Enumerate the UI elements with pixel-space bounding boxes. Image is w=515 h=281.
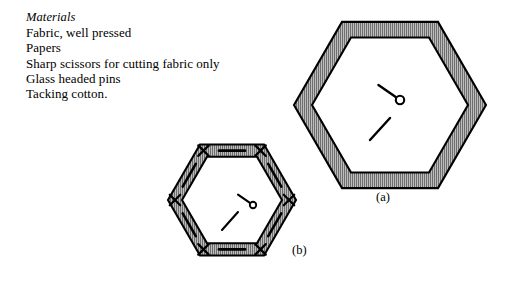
- figures-illustration: [0, 0, 515, 281]
- figure-a-pin: [378, 85, 404, 104]
- figure-a: [294, 22, 486, 188]
- figure-b-pin: [238, 195, 256, 209]
- figure-a-caption: (a): [376, 190, 390, 204]
- figure-b-caption: (b): [292, 243, 307, 257]
- figure-b-fabric-border: [168, 145, 296, 256]
- figure-a-fabric-border: [294, 22, 486, 188]
- figure-b-tacking-stitches: [170, 145, 295, 254]
- figure-b: [168, 145, 296, 256]
- figure-a-thread-tail: [370, 118, 390, 140]
- page-canvas: Materials Fabric, well pressed Papers Sh…: [0, 0, 515, 281]
- figure-b-thread-tail: [222, 212, 238, 230]
